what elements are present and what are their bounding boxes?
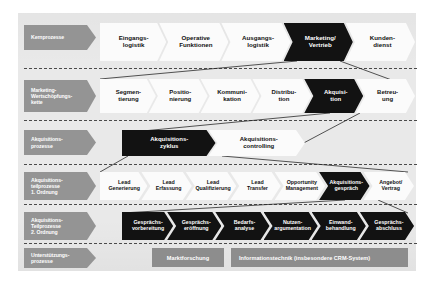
chevron-line-2: eröffnung (184, 225, 209, 231)
row-label-text: Kernprozesse (31, 34, 64, 40)
chevron-line-1: Akquisi- (324, 89, 348, 95)
row-kernprozesse: Eingangs-logistik OperativeFunktionen Au… (100, 23, 408, 61)
support-box-informationstechnik[interactable]: Informationstechnik (insbesondere CRM-Sy… (231, 248, 408, 267)
row-divider-2 (24, 120, 417, 121)
chevron-line-2: Generierung (108, 185, 140, 191)
chevron-line-2: behandlung (326, 225, 356, 231)
chevron-line-2: Transfer (247, 185, 268, 191)
chevron-line-2: logistik (123, 41, 145, 48)
process-chevron-highlighted[interactable]: Nutzen-argumentation (264, 212, 318, 240)
chevron-line-1: Betreu- (377, 89, 398, 95)
chevron-line-1: Kunden- (370, 34, 395, 41)
chevron-line-2: Qualifizierung (195, 185, 230, 191)
chevron-line-2: ung (382, 96, 393, 102)
process-chevron-highlighted[interactable]: Akquisitions-zyklus (122, 130, 216, 156)
chevron-line-2: Management (286, 185, 318, 191)
row-divider-3 (24, 164, 417, 165)
process-chevron[interactable]: LeadQualifizierung (186, 172, 236, 200)
process-chevron[interactable]: LeadErfassung (141, 172, 191, 200)
chevron-line-2: zyklus (160, 143, 178, 149)
process-chevron[interactable]: Eingangs-logistik (100, 23, 166, 61)
process-chevron[interactable]: LeadTransfer (230, 172, 280, 200)
process-chevron-highlighted[interactable]: Marketing/Vertrieb (284, 23, 353, 61)
support-box-marktforschung[interactable]: Marktforschung (152, 248, 224, 267)
chevron-line-2: nierung (169, 96, 191, 102)
process-chevron[interactable]: OpportunityManagement (275, 172, 325, 200)
chevron-line-2: abschluss (376, 225, 402, 231)
row-label-text: Unterstützungs-prozesse (31, 252, 69, 264)
process-chevron[interactable]: OperativeFunktionen (159, 23, 228, 61)
row-label-text: Marketing-Wertschöpfungs-kette (31, 87, 72, 105)
support-box-label: Marktforschung (167, 255, 209, 261)
row-label-unterstuetzungsprozesse: Unterstützungs-prozesse (24, 248, 96, 268)
chevron-line-1: Positio- (169, 89, 191, 95)
chevron-line-1: Operative (182, 34, 211, 41)
chevron-line-2: Funktionen (179, 41, 212, 48)
row-label-text: Akquisitions-Teilprozesse2. Ordnung (31, 217, 63, 235)
process-chevron[interactable]: LeadGenerierung (100, 172, 147, 200)
process-chevron[interactable]: Ausgangs-logistik (221, 23, 290, 61)
chevron-line-2: dienst (373, 41, 391, 48)
diagram-root: Kernprozesse Marketing-Wertschöpfungs-ke… (0, 0, 425, 284)
chevron-line-2: kation (223, 96, 241, 102)
chevron-line-2: vorbereitung (132, 225, 164, 231)
row-divider-5 (24, 243, 417, 244)
process-chevron-highlighted[interactable]: Bedarfs-analyse (215, 212, 269, 240)
row-divider-1 (24, 68, 417, 69)
process-chevron[interactable]: Kommuni-kation (201, 79, 260, 113)
chevron-line-2: gespräch (335, 185, 359, 191)
row-label-text: Akquisitions-teilprozesse1. Ordnung (31, 177, 63, 195)
row-akquisitionsteilprozesse-2-ordnung: Gesprächs-vorbereitung Gesprächs-eröffnu… (122, 212, 408, 240)
chevron-line-1: Kommuni- (217, 89, 247, 95)
chevron-line-2: tierung (118, 96, 138, 102)
row-label-text: Akquisitions-prozesse (31, 136, 63, 148)
process-chevron-highlighted[interactable]: Gesprächs-abschluss (360, 212, 414, 240)
row-akquisitionsprozesse: Akquisitions-zyklus Akquisitions-control… (122, 130, 298, 156)
chevron-line-1: Akquisitions- (150, 136, 188, 142)
row-divider-4 (24, 204, 417, 205)
row-akquisitionsteilprozesse-1-ordnung: LeadGenerierung LeadErfassung LeadQualif… (100, 172, 408, 200)
chevron-line-1: Akquisitions- (240, 136, 278, 142)
row-label-kernprozesse: Kernprozesse (24, 25, 96, 50)
row-label-akquisitionsteilprozesse-1-ordnung: Akquisitions-teilprozesse1. Ordnung (24, 172, 96, 200)
process-chevron-highlighted[interactable]: Einwand-behandlung (312, 212, 366, 240)
chevron-line-2: Vertrag (382, 185, 400, 191)
chevron-line-2: argumentation (274, 225, 311, 231)
process-chevron-highlighted[interactable]: Gesprächs-vorbereitung (122, 212, 173, 240)
chevron-line-2: analyse (235, 225, 254, 231)
process-chevron-highlighted[interactable]: Akquisi-tion (304, 79, 363, 113)
process-chevron[interactable]: Positio-nierung (149, 79, 208, 113)
chevron-line-1: Eingangs- (119, 34, 149, 41)
chevron-line-2: tion (330, 96, 341, 102)
process-chevron[interactable]: Segmen-tierung (100, 79, 156, 113)
process-chevron[interactable]: Kunden-dienst (346, 23, 415, 61)
chevron-line-2: controlling (243, 143, 274, 149)
row-marketing-wertschoepfungskette: Segmen-tierung Positio-nierung Kommuni-k… (100, 79, 408, 113)
row-label-akquisitionsteilprozesse-2-ordnung: Akquisitions-Teilprozesse2. Ordnung (24, 212, 96, 240)
chevron-line-2: logistik (247, 41, 269, 48)
process-chevron[interactable]: Akquisitions-controlling (209, 130, 306, 156)
process-chevron-highlighted[interactable]: Gesprächs-eröffnung (167, 212, 221, 240)
process-chevron-highlighted[interactable]: Akquisitions-gespräch (319, 172, 369, 200)
chevron-line-2: tion (278, 96, 289, 102)
chevron-line-1: Marketing/ (305, 34, 336, 41)
row-label-marketing-wertschoepfungskette: Marketing-Wertschöpfungs-kette (24, 80, 96, 112)
chevron-line-1: Ausgangs- (242, 34, 274, 41)
chevron-line-1: Distribu- (272, 89, 297, 95)
chevron-line-2: Erfassung (156, 185, 182, 191)
process-chevron[interactable]: Angebot/Vertrag (364, 172, 414, 200)
process-chevron[interactable]: Betreu-ung (356, 79, 415, 113)
chevron-line-2: Vertrieb (309, 41, 332, 48)
chevron-line-1: Segmen- (116, 89, 141, 95)
process-chevron[interactable]: Distribu-tion (252, 79, 311, 113)
row-label-akquisitionsprozesse: Akquisitions-prozesse (24, 130, 96, 155)
support-box-label: Informationstechnik (insbesondere CRM-Sy… (239, 255, 370, 261)
